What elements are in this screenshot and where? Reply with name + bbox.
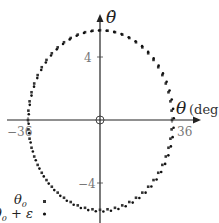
data-point — [80, 207, 83, 210]
x-tick-label-pos: 36 — [177, 125, 192, 139]
data-point — [45, 59, 48, 62]
data-point — [169, 137, 172, 140]
data-point — [138, 197, 141, 200]
y-tick-label-neg: −4 — [78, 177, 96, 191]
data-point — [121, 204, 124, 207]
data-point — [91, 208, 94, 211]
data-point — [45, 61, 48, 64]
data-point — [28, 132, 31, 135]
data-point — [28, 137, 31, 140]
data-point — [134, 40, 137, 43]
data-point — [172, 108, 175, 111]
data-point — [170, 145, 173, 148]
data-point — [157, 64, 160, 67]
data-point — [170, 98, 173, 101]
data-point — [157, 171, 160, 174]
data-point — [51, 185, 54, 188]
data-point — [53, 189, 56, 192]
x-axis-label-symbol: θ — [176, 98, 186, 118]
data-point — [168, 89, 171, 92]
data-point — [84, 207, 87, 210]
data-point — [160, 171, 163, 174]
data-point — [40, 66, 43, 69]
data-point — [152, 179, 155, 182]
data-point — [171, 136, 174, 139]
legend-marker-dot-icon — [43, 212, 46, 215]
data-point — [131, 201, 134, 204]
data-point — [144, 191, 147, 194]
data-point — [172, 126, 175, 129]
data-point — [28, 113, 31, 116]
data-point — [38, 167, 41, 170]
data-point — [30, 91, 33, 94]
data-point — [120, 33, 123, 36]
data-point — [113, 31, 116, 34]
data-point — [40, 69, 43, 72]
data-point — [87, 209, 90, 212]
data-point — [128, 201, 131, 204]
data-point — [36, 164, 39, 167]
data-point — [47, 182, 50, 185]
data-point — [141, 191, 144, 194]
data-point — [36, 77, 39, 80]
data-point — [164, 163, 167, 166]
x-axis-arrow-icon — [193, 117, 201, 124]
data-point — [40, 171, 43, 174]
data-point — [106, 208, 109, 211]
data-point — [76, 204, 79, 207]
data-point — [30, 94, 33, 97]
data-point — [28, 100, 31, 103]
data-point — [27, 119, 30, 122]
data-point — [55, 48, 58, 51]
data-point — [105, 29, 108, 32]
data-point — [33, 82, 36, 85]
data-point — [45, 179, 48, 182]
data-point — [152, 57, 155, 60]
data-point — [99, 208, 102, 211]
data-point — [27, 109, 30, 112]
data-point — [165, 80, 168, 83]
data-point — [51, 52, 54, 55]
data-point — [50, 54, 53, 57]
plot-area: −36 36 4 −4 θ̇ θ (deg) θ0 θ0 + ε — [0, 0, 219, 223]
legend: θ0 θ0 + ε — [0, 192, 46, 223]
data-point — [167, 146, 170, 149]
data-point — [98, 29, 101, 32]
data-point — [69, 201, 72, 204]
data-point — [56, 191, 59, 194]
data-point — [155, 178, 158, 181]
data-point — [164, 155, 167, 158]
data-point — [29, 141, 32, 144]
data-point — [27, 128, 30, 131]
data-point — [127, 36, 130, 39]
legend-label-theta0-eps: θ0 + ε — [0, 206, 33, 223]
data-point — [141, 45, 144, 48]
data-point — [117, 208, 120, 211]
y-axis-label: θ̇ — [106, 7, 116, 27]
data-point — [110, 209, 113, 212]
data-point — [94, 210, 97, 213]
data-point — [172, 117, 175, 120]
data-point — [33, 85, 36, 88]
phase-portrait-chart: −36 36 4 −4 θ̇ θ (deg) θ0 θ0 + ε — [0, 0, 219, 223]
data-point — [147, 185, 150, 188]
data-point — [33, 155, 36, 158]
data-point — [28, 104, 31, 107]
data-point — [68, 38, 71, 41]
data-point — [32, 150, 35, 153]
data-point — [42, 175, 45, 178]
data-point — [135, 196, 138, 199]
data-point — [63, 196, 66, 199]
data-point — [75, 34, 78, 37]
data-point — [90, 30, 93, 33]
x-axis-label-unit: (deg) — [189, 102, 219, 117]
data-point — [30, 146, 33, 149]
data-point — [66, 199, 69, 202]
data-point — [83, 32, 86, 35]
data-point — [114, 207, 117, 210]
data-point — [72, 204, 75, 207]
data-point — [161, 164, 164, 167]
y-tick-label-pos: 4 — [84, 51, 92, 65]
scatter-points — [27, 29, 175, 213]
legend-marker-square-icon — [43, 200, 46, 203]
